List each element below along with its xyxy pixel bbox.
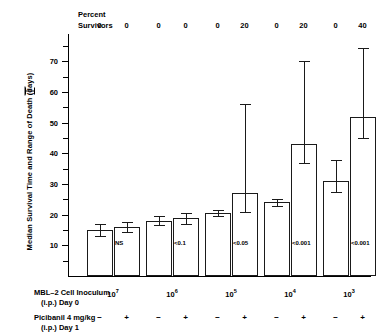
figure-survival-chart: Median Survival Time and Range of Death … xyxy=(0,0,381,335)
pvalue-10⁷: NS xyxy=(115,240,123,246)
bar-10⁷-plus xyxy=(114,227,140,276)
x-group-label-2: 105 xyxy=(214,288,248,299)
error-bar-10⁷-plus xyxy=(127,222,128,231)
error-bar-10³-plus xyxy=(363,48,364,138)
bar-10⁴-plus xyxy=(291,144,317,276)
bar-10⁴-minus xyxy=(264,202,290,276)
y-tick-70 xyxy=(62,61,69,62)
percent-survivors-10⁵-plus: 20 xyxy=(237,21,253,30)
error-cap-upper xyxy=(240,104,251,105)
y-axis-title-text: Median Survival Time and Range of Death xyxy=(25,97,34,250)
picibanil-sign-0-plus: + xyxy=(121,313,133,322)
error-cap-upper xyxy=(272,199,283,200)
error-cap-lower xyxy=(272,206,283,207)
y-tick-40 xyxy=(62,153,69,154)
pvalue-10⁵: <0.05 xyxy=(233,240,248,246)
y-tick-label-70: 70 xyxy=(38,57,58,66)
error-cap-upper xyxy=(213,210,224,211)
pvalue-10⁶: <0.1 xyxy=(174,240,186,246)
percent-survivors-10⁵-minus: 0 xyxy=(210,21,226,30)
error-cap-lower xyxy=(331,192,342,193)
error-cap-lower xyxy=(240,212,251,213)
y-axis-title: Median Survival Time and Range of Death … xyxy=(25,37,34,287)
y-tick-label-20: 20 xyxy=(38,211,58,220)
y-tick-30 xyxy=(62,184,69,185)
y-axis-line xyxy=(68,34,69,276)
y-minor-tick-15 xyxy=(63,230,68,231)
error-cap-lower xyxy=(95,236,106,237)
percent-survivors-10⁶-plus: 0 xyxy=(178,21,194,30)
x-group-label-0: 107 xyxy=(96,288,130,299)
bar-10⁵-minus xyxy=(205,213,231,276)
y-minor-tick-65 xyxy=(63,77,68,78)
y-tick-label-60: 60 xyxy=(38,88,58,97)
picibanil-sign-3-minus: − xyxy=(271,313,283,322)
x-group-label-3: 104 xyxy=(273,288,307,299)
x-axis-line xyxy=(68,276,371,277)
percent-survivors-10⁷-plus: 0 xyxy=(119,21,135,30)
error-cap-lower xyxy=(181,224,192,225)
errorbar-legend-glyph xyxy=(25,86,26,95)
error-cap-lower xyxy=(213,216,224,217)
y-tick-20 xyxy=(62,215,69,216)
error-bar-10⁶-plus xyxy=(186,213,187,224)
picibanil-sign-1-minus: − xyxy=(153,313,165,322)
error-bar-10⁴-plus xyxy=(304,61,305,162)
y-tick-label-40: 40 xyxy=(38,149,58,158)
error-bar-10⁷-minus xyxy=(100,224,101,236)
percent-survivors-10³-minus: 0 xyxy=(328,21,344,30)
error-cap-upper xyxy=(358,48,369,49)
picibanil-sign-2-plus: + xyxy=(239,313,251,322)
percent-survivors-10⁷-minus: 0 xyxy=(92,21,108,30)
bar-10⁶-plus xyxy=(173,218,199,276)
y-minor-tick-35 xyxy=(63,169,68,170)
y-tick-10 xyxy=(62,245,69,246)
error-cap-lower xyxy=(154,225,165,226)
percent-survivors-10⁶-minus: 0 xyxy=(151,21,167,30)
picibanil-sign-2-minus: − xyxy=(212,313,224,322)
y-minor-tick-75 xyxy=(63,46,68,47)
error-cap-upper xyxy=(95,224,106,225)
error-cap-upper xyxy=(122,222,133,223)
x-group-label-1: 106 xyxy=(155,288,189,299)
pvalue-10⁴: <0.001 xyxy=(292,240,311,246)
picibanil-sign-4-plus: + xyxy=(357,313,369,322)
bar-10³-plus xyxy=(350,117,376,276)
y-tick-label-50: 50 xyxy=(38,119,58,128)
picibanil-row-label-line1: Picibanil 4 mg/kg xyxy=(34,313,95,322)
y-tick-label-30: 30 xyxy=(38,180,58,189)
error-cap-lower xyxy=(358,138,369,139)
error-cap-upper xyxy=(181,213,192,214)
error-bar-10³-minus xyxy=(336,160,337,192)
percent-survivors-10⁴-minus: 0 xyxy=(269,21,285,30)
error-cap-upper xyxy=(299,61,310,62)
error-cap-lower xyxy=(299,163,310,164)
percent-survivors-10⁴-plus: 20 xyxy=(296,21,312,30)
error-bar-10⁶-minus xyxy=(159,216,160,225)
y-tick-60 xyxy=(62,92,69,93)
y-tick-label-10: 10 xyxy=(38,241,58,250)
error-cap-lower xyxy=(122,232,133,233)
y-minor-tick-25 xyxy=(63,199,68,200)
error-bar-10⁵-plus xyxy=(245,104,246,211)
y-tick-50 xyxy=(62,123,69,124)
bar-10³-minus xyxy=(323,181,349,276)
bar-10⁶-minus xyxy=(146,221,172,276)
error-cap-upper xyxy=(154,216,165,217)
inoculum-row-label-line2: (i.p.) Day 0 xyxy=(41,298,79,307)
y-minor-tick-5 xyxy=(63,261,68,262)
error-cap-upper xyxy=(331,160,342,161)
picibanil-sign-3-plus: + xyxy=(298,313,310,322)
picibanil-sign-4-minus: − xyxy=(330,313,342,322)
picibanil-row-label-line2: (i.p.) Day 1 xyxy=(41,323,79,332)
percent-survivors-10³-plus: 40 xyxy=(355,21,371,30)
pvalue-10³: <0.001 xyxy=(351,240,370,246)
x-group-label-4: 103 xyxy=(332,288,366,299)
picibanil-sign-1-plus: + xyxy=(180,313,192,322)
y-minor-tick-45 xyxy=(63,138,68,139)
percent-survivors-label-line1: Percent xyxy=(78,10,106,19)
picibanil-sign-0-minus: − xyxy=(94,313,106,322)
y-minor-tick-55 xyxy=(63,107,68,108)
